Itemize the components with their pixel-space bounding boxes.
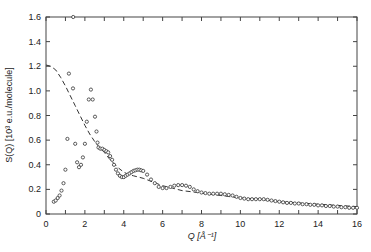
data-point (332, 205, 335, 208)
data-point (169, 185, 172, 188)
y-tick-label: 1.0 (28, 86, 41, 96)
data-point (274, 200, 277, 203)
data-point (250, 198, 253, 201)
data-point (81, 156, 84, 159)
data-point (149, 178, 152, 181)
data-point (142, 169, 145, 172)
y-tick-label: 0.6 (28, 135, 41, 145)
data-point (200, 191, 203, 194)
data-point (344, 206, 347, 209)
data-point (223, 193, 226, 196)
data-point (112, 163, 115, 166)
x-axis-label: Q [Å⁻¹] (188, 231, 217, 241)
x-tick-label: 12 (274, 219, 284, 229)
x-tick-label: 6 (160, 219, 165, 229)
data-point (355, 206, 358, 209)
data-point (153, 182, 156, 185)
x-tick-labels: 0246810121416 (43, 219, 362, 229)
data-point (254, 198, 257, 201)
data-point (58, 194, 61, 197)
data-point (76, 161, 79, 164)
data-point (192, 188, 195, 191)
data-point (67, 72, 70, 75)
data-point (161, 187, 164, 190)
data-point (93, 115, 96, 118)
data-point (328, 204, 331, 207)
data-point (208, 192, 211, 195)
data-point (231, 194, 234, 197)
data-point (95, 130, 98, 133)
data-point (340, 206, 343, 209)
plot-border (46, 17, 357, 214)
y-tick-label: 0.4 (28, 160, 41, 170)
data-point (87, 98, 90, 101)
data-point (165, 187, 168, 190)
data-point (352, 206, 355, 209)
data-point (79, 163, 82, 166)
data-point (227, 193, 230, 196)
data-point (114, 168, 117, 171)
data-point (235, 195, 238, 198)
data-point (320, 204, 323, 207)
data-point (216, 192, 219, 195)
data-point (91, 98, 94, 101)
data-point (60, 189, 63, 192)
data-point (89, 88, 92, 91)
data-point (111, 158, 114, 161)
data-point (188, 185, 191, 188)
data-point (301, 203, 304, 206)
x-tick-label: 14 (313, 219, 323, 229)
data-point (247, 198, 250, 201)
data-point (62, 182, 65, 185)
y-axis-label: S(Q) [10³ e.u./molecule] (4, 67, 14, 163)
data-point (278, 200, 281, 203)
data-point (173, 184, 176, 187)
data-point (109, 155, 112, 158)
data-point (239, 196, 242, 199)
data-point (289, 201, 292, 204)
x-tick-label: 16 (352, 219, 362, 229)
data-point (305, 203, 308, 206)
axis-ticks (46, 17, 357, 214)
data-point (64, 168, 67, 171)
data-point (293, 202, 296, 205)
data-point (317, 204, 320, 207)
y-tick-label: 0.8 (28, 111, 41, 121)
data-point (72, 15, 75, 18)
x-tick-label: 4 (121, 219, 126, 229)
y-tick-labels: 00.20.40.60.81.01.21.41.6 (28, 12, 41, 219)
y-tick-label: 0.2 (28, 184, 41, 194)
data-point (285, 201, 288, 204)
x-tick-label: 0 (43, 219, 48, 229)
data-point (262, 198, 265, 201)
data-point (204, 192, 207, 195)
y-tick-label: 1.4 (28, 37, 41, 47)
data-point (313, 203, 316, 206)
data-point (85, 120, 88, 123)
data-point (258, 198, 261, 201)
data-point (266, 198, 269, 201)
data-point (66, 137, 69, 140)
data-point (146, 173, 149, 176)
data-point (270, 199, 273, 202)
data-point (282, 201, 285, 204)
data-point (212, 192, 215, 195)
chart: 0246810121416 00.20.40.60.81.01.21.41.6 … (0, 0, 371, 252)
x-tick-label: 8 (199, 219, 204, 229)
data-point (348, 206, 351, 209)
data-point (196, 190, 199, 193)
data-point (96, 141, 99, 144)
y-tick-label: 1.2 (28, 61, 41, 71)
data-point (71, 87, 74, 90)
y-tick-label: 1.6 (28, 12, 41, 22)
model-curve (46, 65, 357, 207)
data-point (181, 184, 184, 187)
data-point (309, 203, 312, 206)
plot-frame (46, 17, 357, 214)
x-tick-label: 2 (82, 219, 87, 229)
data-point (336, 205, 339, 208)
y-tick-label: 0 (36, 209, 41, 219)
data-point (177, 184, 180, 187)
data-point (297, 202, 300, 205)
x-tick-label: 10 (235, 219, 245, 229)
